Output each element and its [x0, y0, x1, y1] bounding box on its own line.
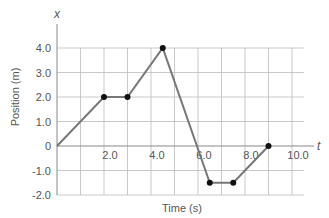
position-line — [57, 48, 269, 183]
data-point — [266, 143, 272, 149]
data-point — [125, 94, 131, 100]
grid — [57, 48, 304, 195]
y-tick-label: 0 — [45, 140, 51, 152]
data-point — [230, 180, 236, 186]
data-point — [101, 94, 107, 100]
x-tick-label: 4.0 — [149, 149, 164, 161]
y-tick-label: 4.0 — [36, 42, 51, 54]
y-axis-symbol: x — [53, 7, 61, 21]
axes — [57, 24, 314, 195]
y-tick-label: 2.0 — [36, 91, 51, 103]
y-tick-label: -2.0 — [32, 189, 51, 201]
x-tick-label: 2.0 — [102, 149, 117, 161]
x-axis-symbol: t — [317, 139, 321, 153]
y-tick-label: -1.0 — [32, 165, 51, 177]
x-axis-label: Time (s) — [162, 202, 202, 214]
data-series — [57, 45, 272, 186]
position-time-chart: 2.04.06.08.010.04.03.02.01.00-1.0-2.0 Ti… — [0, 0, 329, 218]
y-tick-label: 1.0 — [36, 116, 51, 128]
data-point — [207, 180, 213, 186]
x-tick-label: 10.0 — [287, 149, 308, 161]
y-tick-label: 3.0 — [36, 67, 51, 79]
data-point — [160, 45, 166, 51]
y-axis-label: Position (m) — [9, 68, 21, 127]
